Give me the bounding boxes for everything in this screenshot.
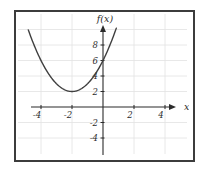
y-tick-label: -2 bbox=[90, 118, 98, 128]
y-tick-label: 8 bbox=[93, 40, 99, 50]
y-axis-label: f(x) bbox=[96, 13, 114, 24]
function-plot: -4-2248642-2-4f(x)x bbox=[16, 12, 189, 156]
x-tick-label: -2 bbox=[64, 110, 72, 120]
page-background: -4-2248642-2-4f(x)x bbox=[0, 0, 203, 176]
x-tick-label: -4 bbox=[33, 110, 41, 120]
x-axis-label: x bbox=[184, 101, 189, 112]
x-tick-label: 2 bbox=[126, 110, 132, 120]
graph-frame: -4-2248642-2-4f(x)x bbox=[14, 10, 195, 162]
y-tick-label: -4 bbox=[90, 133, 98, 143]
y-tick-label: 2 bbox=[92, 87, 98, 97]
x-axis-arrow-icon bbox=[169, 104, 176, 110]
y-axis-arrow-icon bbox=[100, 25, 106, 32]
x-tick-label: 4 bbox=[157, 110, 163, 120]
y-tick-label: 6 bbox=[93, 56, 99, 66]
